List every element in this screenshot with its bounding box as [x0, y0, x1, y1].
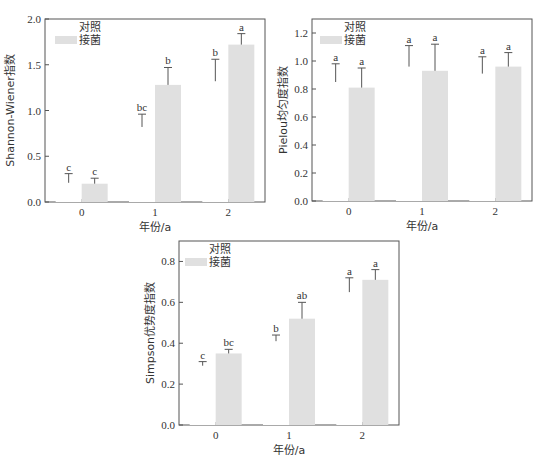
control-bar	[202, 81, 228, 202]
y-tick-label: 2.0	[27, 13, 41, 25]
x-tick-label: 1	[152, 206, 158, 218]
x-tick-label: 1	[419, 205, 425, 217]
control-bar	[263, 341, 289, 425]
legend-swatch-control	[185, 245, 207, 253]
y-tick-label: 0.5	[27, 150, 41, 162]
control-bar	[469, 74, 495, 201]
y-axis-label: Pielou均匀度指数	[276, 66, 290, 154]
y-tick-label: 1.0	[294, 55, 308, 67]
significance-label: a	[407, 33, 412, 45]
significance-label: a	[333, 51, 338, 63]
legend-swatch-treatment	[55, 36, 77, 44]
significance-label: ab	[297, 289, 308, 301]
significance-label: a	[506, 40, 511, 52]
x-tick-label: 2	[493, 205, 499, 217]
control-bar	[190, 366, 216, 425]
y-tick-label: 0.0	[161, 419, 175, 431]
y-axis-label: Simpson优势度指数	[143, 282, 157, 384]
y-axis-label: Shannon-Wiener指数	[3, 54, 17, 167]
legend-swatch-treatment	[320, 36, 342, 44]
significance-label: b	[165, 54, 171, 66]
x-tick-label: 1	[286, 429, 292, 441]
x-axis-label: 年份/a	[406, 219, 438, 232]
legend-label-treatment: 接菌	[79, 34, 101, 47]
legend-swatch-treatment	[185, 258, 207, 266]
y-tick-label: 1.5	[27, 59, 41, 71]
x-axis-label: 年份/a	[139, 220, 171, 232]
x-tick-label: 0	[213, 429, 219, 441]
y-tick-label: 0.4	[294, 139, 308, 151]
legend-label-treatment: 接菌	[344, 34, 366, 47]
y-tick-label: 0.2	[294, 167, 308, 179]
treatment-bar	[289, 319, 315, 425]
control-bar	[396, 67, 422, 201]
treatment-bar	[495, 67, 521, 201]
legend-label-control: 对照	[79, 20, 101, 34]
control-bar	[129, 127, 155, 202]
x-tick-label: 0	[346, 205, 352, 217]
legend-label-treatment: 接菌	[209, 256, 231, 269]
treatment-bar	[349, 88, 375, 201]
treatment-bar	[155, 85, 181, 202]
significance-label: c	[66, 161, 71, 173]
significance-label: bc	[223, 336, 234, 348]
significance-label: b	[213, 46, 219, 58]
y-tick-label: 0.6	[294, 111, 308, 123]
simpson-chart: 0.00.20.40.60.8Simpson优势度指数年份/a0cbc1bab2…	[130, 232, 420, 465]
y-tick-label: 1.2	[294, 27, 308, 39]
legend-swatch-control	[55, 23, 77, 31]
significance-label: bc	[137, 101, 148, 113]
legend-label-control: 对照	[344, 20, 366, 34]
y-tick-label: 0.8	[294, 83, 308, 95]
y-tick-label: 0.2	[161, 378, 175, 390]
y-tick-label: 1.0	[27, 105, 41, 117]
significance-label: c	[200, 349, 205, 361]
treatment-bar	[422, 71, 448, 201]
control-bar	[56, 183, 82, 202]
significance-label: c	[92, 165, 97, 177]
y-tick-label: 0.0	[294, 195, 308, 207]
x-tick-label: 0	[79, 206, 85, 218]
x-axis-label: 年份/a	[273, 443, 305, 457]
control-bar	[336, 292, 362, 425]
control-bar	[323, 82, 349, 201]
significance-label: b	[273, 322, 279, 334]
legend-swatch-control	[320, 23, 342, 31]
shannon-wiener-chart: 0.00.51.01.52.0Shannon-Wiener指数年份/a0cc1b…	[0, 0, 273, 232]
significance-label: a	[480, 44, 485, 56]
pielou-chart: 0.00.20.40.60.81.01.2Pielou均匀度指数年份/a0aa1…	[273, 0, 546, 232]
x-tick-label: 2	[360, 429, 366, 441]
treatment-bar	[82, 184, 108, 202]
treatment-bar	[228, 45, 254, 202]
treatment-bar	[216, 353, 242, 425]
y-tick-label: 0.8	[161, 255, 175, 267]
y-tick-label: 0.4	[161, 337, 175, 349]
significance-label: a	[239, 21, 244, 33]
y-tick-label: 0.0	[27, 196, 41, 208]
significance-label: a	[433, 31, 438, 43]
significance-label: a	[347, 265, 352, 277]
significance-label: a	[373, 257, 378, 269]
x-tick-label: 2	[226, 206, 232, 218]
significance-label: a	[359, 55, 364, 67]
y-tick-label: 0.6	[161, 296, 175, 308]
treatment-bar	[362, 280, 388, 425]
legend-label-control: 对照	[209, 242, 231, 256]
